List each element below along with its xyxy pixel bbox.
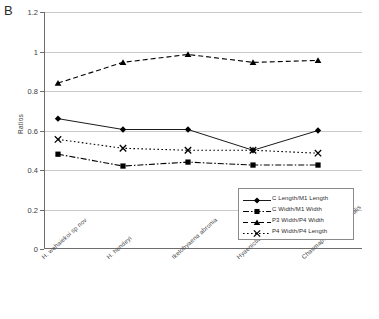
legend-item: C Length/M1 Length <box>242 192 349 203</box>
legend-key-diamond-icon <box>242 192 272 203</box>
legend-item-label: C Width/M1 Width <box>272 206 322 212</box>
gridline <box>45 12 362 13</box>
gridline <box>45 131 362 132</box>
legend-item: P3 Width/P4 Width <box>242 214 349 225</box>
legend-item-label: P4 Width/P4 Length <box>272 228 327 234</box>
y-axis-title: Ratios <box>17 114 24 134</box>
gridline <box>45 91 362 92</box>
chart-figure: B 1.210.80.60.40.20 Ratios H. wehaiekoi … <box>0 0 379 319</box>
gridline <box>45 52 362 53</box>
legend-key-x-icon <box>242 225 272 236</box>
legend-key-triangle-icon <box>242 214 272 225</box>
legend-item-label: C Length/M1 Length <box>272 195 328 201</box>
legend-key-square-icon <box>242 203 272 214</box>
legend-item-label: P3 Width/P4 Width <box>272 217 324 223</box>
x-axis-category-labels: H. wehaiekoi sp novH. hendeyiIkelohyaena… <box>0 249 379 319</box>
legend-item: C Width/M1 Width <box>242 203 349 214</box>
chart-legend: C Length/M1 LengthC Width/M1 WidthP3 Wid… <box>238 188 354 240</box>
legend-item: P4 Width/P4 Length <box>242 225 349 236</box>
gridline <box>45 170 362 171</box>
